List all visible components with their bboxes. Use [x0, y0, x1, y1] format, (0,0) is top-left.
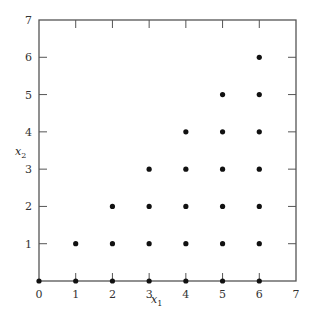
data-point — [257, 204, 262, 209]
x-tick-label: 5 — [219, 288, 226, 301]
data-point — [110, 278, 115, 283]
x-tick-label: 4 — [182, 288, 189, 301]
data-point — [220, 278, 225, 283]
y-tick-label: 6 — [25, 51, 32, 64]
data-point — [220, 167, 225, 172]
y-tick-label: 7 — [25, 14, 32, 27]
data-point — [183, 241, 188, 246]
x-tick-label: 1 — [72, 288, 79, 301]
data-point — [147, 167, 152, 172]
data-point — [73, 278, 78, 283]
x-tick-label: 7 — [293, 288, 300, 301]
y-tick-label: 2 — [25, 200, 32, 213]
data-point — [36, 278, 41, 283]
data-point — [220, 204, 225, 209]
data-point — [183, 204, 188, 209]
data-point — [220, 129, 225, 134]
data-point — [257, 55, 262, 60]
data-point — [257, 241, 262, 246]
plot-frame — [39, 20, 296, 281]
data-point — [147, 278, 152, 283]
data-points — [36, 55, 261, 284]
data-point — [110, 204, 115, 209]
y-tick-label: 3 — [25, 163, 32, 176]
axis-ticks — [39, 20, 296, 281]
y-tick-label: 1 — [25, 238, 32, 251]
x-tick-label: 0 — [36, 288, 43, 301]
data-point — [257, 129, 262, 134]
data-point — [183, 129, 188, 134]
y-tick-label: 5 — [25, 89, 32, 102]
x-tick-label: 2 — [109, 288, 116, 301]
data-point — [220, 241, 225, 246]
data-point — [110, 241, 115, 246]
data-point — [257, 92, 262, 97]
x-axis-label: x1 — [151, 293, 162, 308]
y-axis-label: x2 — [15, 145, 26, 160]
data-point — [73, 241, 78, 246]
data-point — [147, 204, 152, 209]
data-point — [257, 167, 262, 172]
data-point — [147, 241, 152, 246]
data-point — [220, 92, 225, 97]
data-point — [257, 278, 262, 283]
x-tick-label: 6 — [256, 288, 263, 301]
y-tick-label: 4 — [25, 126, 32, 139]
data-point — [183, 167, 188, 172]
scatter-chart: 012345671234567 x1 x2 — [0, 0, 309, 316]
data-point — [183, 278, 188, 283]
